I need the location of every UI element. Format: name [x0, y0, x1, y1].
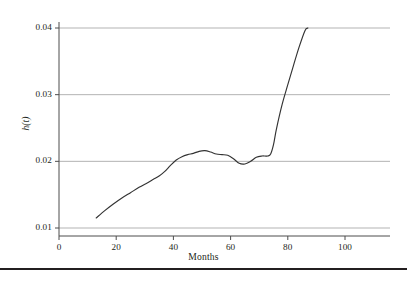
- x-axis-title: Months: [0, 251, 407, 262]
- tickmarks-group: [55, 28, 345, 240]
- y-tick-label: 0.01: [26, 222, 52, 232]
- chart-plot-area: [0, 0, 407, 281]
- gridlines-group: [59, 28, 390, 228]
- y-tick-label: 0.04: [26, 22, 52, 32]
- figure-container: 0.010.020.030.04 020406080100 h(t) Month…: [0, 0, 407, 281]
- footer-rule: [0, 268, 407, 270]
- y-tick-label: 0.03: [26, 89, 52, 99]
- axis-lines-group: [59, 22, 390, 236]
- y-tick-label: 0.02: [26, 155, 52, 165]
- y-axis-title: h(t): [20, 109, 31, 139]
- hazard-curve: [96, 28, 308, 218]
